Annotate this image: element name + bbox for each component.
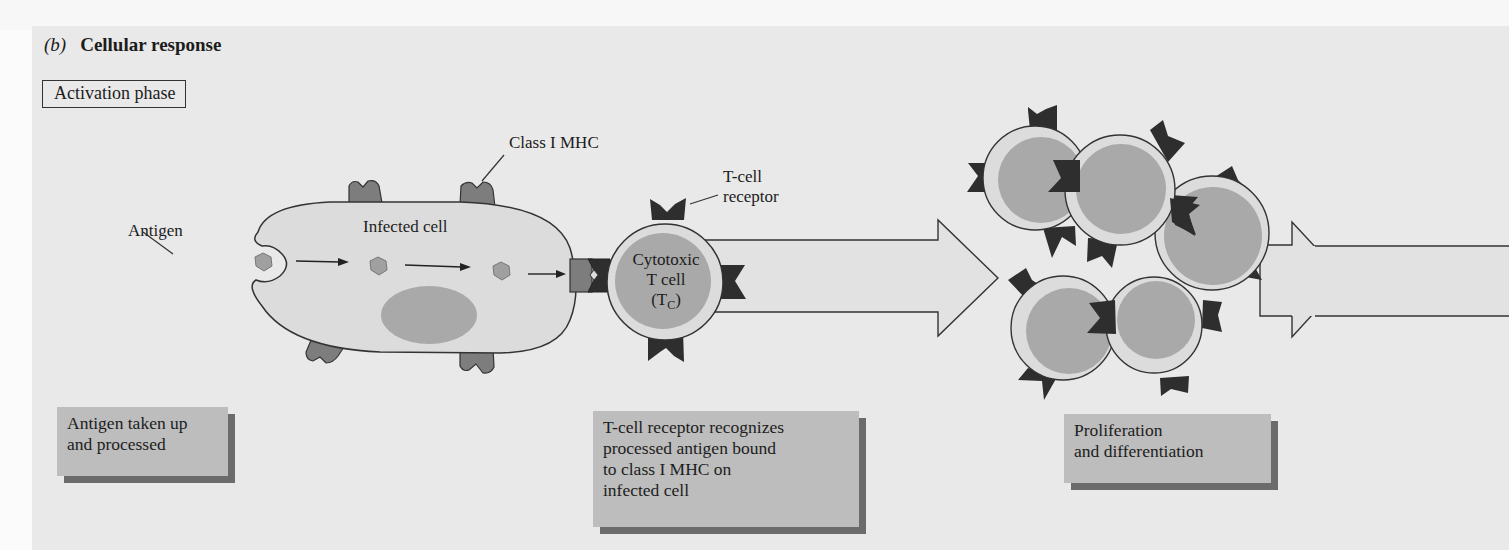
caption-tcr-recognition: T-cell receptor recognizes processed ant… (593, 411, 859, 527)
caption-line: and processed (67, 434, 218, 455)
tcr-label-line2: receptor (723, 187, 779, 206)
figure-title: (b)Cellular response (44, 34, 221, 56)
caption-proliferation: Proliferation and differentiation (1064, 414, 1271, 483)
proliferating-cell-cluster (967, 105, 1269, 400)
panel-letter: (b) (44, 34, 66, 55)
tcell-abbrev: (T (651, 290, 667, 309)
caption-line: Proliferation (1074, 420, 1261, 441)
arrow-proliferation-output (1260, 222, 1509, 337)
mhc-tcr-complex (570, 259, 610, 292)
tcr-leader-line (690, 195, 718, 204)
infected-cell-nucleus (381, 286, 477, 344)
caption-line: and differentiation (1074, 441, 1261, 462)
caption-antigen-processing: Antigen taken up and processed (57, 407, 228, 476)
tcell-label-line1: Cytotoxic (616, 250, 716, 270)
phase-label-box: Activation phase (42, 80, 186, 108)
caption-line: processed antigen bound (603, 438, 849, 459)
mhc-leader-line (482, 155, 504, 181)
arrow-activation-to-proliferation (700, 220, 998, 336)
antigen-particle-1 (255, 253, 272, 271)
panel-title: Cellular response (80, 34, 221, 55)
infected-cell-label: Infected cell (363, 217, 447, 236)
tcell-label-line3: (TC) (616, 290, 716, 315)
cytotoxic-t-cell-label: Cytotoxic T cell (TC) (616, 250, 716, 315)
tcell-label-line2: T cell (616, 270, 716, 290)
tcr-top (650, 198, 686, 220)
tcell-abbrev-close: ) (675, 290, 681, 309)
class-i-mhc-label: Class I MHC (509, 133, 599, 152)
caption-line: to class I MHC on (603, 459, 849, 480)
tcr-label-line1: T-cell (723, 167, 762, 186)
antigen-label: Antigen (128, 221, 183, 240)
caption-line: Antigen taken up (67, 413, 218, 434)
caption-line: infected cell (603, 480, 849, 501)
mhc-top-1 (349, 181, 382, 203)
caption-line: T-cell receptor recognizes (603, 417, 849, 438)
tcell-abbrev-sub: C (667, 298, 675, 312)
